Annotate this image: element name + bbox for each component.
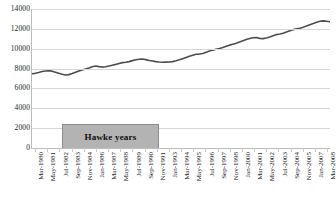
- x-axis-tick-label: May-1988: [123, 152, 130, 181]
- x-axis-tick-label: Jul-2003: [282, 152, 289, 177]
- gridline: [32, 88, 330, 89]
- gridline: [32, 29, 330, 30]
- x-axis-tick-label: Jul-1989: [136, 152, 143, 177]
- x-axis-tick-label: Nov-1984: [87, 152, 94, 180]
- y-axis-tick-label: 0: [2, 144, 30, 152]
- x-axis-tick-label: Nov-2005: [306, 152, 313, 180]
- gridline: [32, 9, 330, 10]
- x-axis-tick-label: Mar-1994: [184, 152, 191, 180]
- x-axis-tick-label: Jan-2000: [245, 152, 252, 178]
- x-axis-tick-label: Sep-2004: [294, 152, 301, 179]
- x-axis-tick-label: Sep-1990: [148, 152, 155, 179]
- hawke-years-annotation: Hawke years: [62, 124, 159, 149]
- gridline: [32, 49, 330, 50]
- y-axis-tick-label: 14000: [2, 5, 30, 13]
- y-axis-labels: 02000400060008000100001200014000: [0, 0, 30, 208]
- y-axis-tick-label: 6000: [2, 85, 30, 93]
- x-axis-tick-label: Sep-1997: [221, 152, 228, 179]
- line-chart: 02000400060008000100001200014000 Hawke y…: [0, 0, 336, 208]
- y-axis-tick-label: 8000: [2, 65, 30, 73]
- x-axis-tick-label: Nov-1991: [160, 152, 167, 180]
- y-axis-tick-label: 10000: [2, 45, 30, 53]
- x-axis-tick-label: May-1981: [50, 152, 57, 181]
- x-axis-tick-label: Mar-1987: [111, 152, 118, 180]
- x-axis-tick-label: May-1995: [196, 152, 203, 181]
- x-axis-tick-label: Jan-2007: [318, 152, 325, 178]
- x-axis-tick-label: Nov-1998: [233, 152, 240, 180]
- x-axis-tick-label: Jan-1993: [172, 152, 179, 178]
- y-axis-tick-label: 4000: [2, 105, 30, 113]
- y-axis-tick-label: 12000: [2, 25, 30, 33]
- y-axis-tick-label: 2000: [2, 124, 30, 132]
- x-axis-tick-label: Mar-2001: [257, 152, 264, 180]
- x-axis-tick-label: Mar-1980: [38, 152, 45, 180]
- x-axis-tick-label: Jul-1996: [209, 152, 216, 177]
- x-axis-tick-label: Jul-1982: [63, 152, 70, 177]
- hawke-years-label: Hawke years: [85, 132, 137, 142]
- x-axis-tick-label: May-2002: [269, 152, 276, 181]
- x-axis-tick-label: Sep-1983: [75, 152, 82, 179]
- x-axis-labels: Mar-1980May-1981Jul-1982Sep-1983Nov-1984…: [32, 152, 330, 208]
- x-axis-tick-label: Mar-2008: [330, 152, 336, 180]
- x-axis-tick-label: Jan-1986: [99, 152, 106, 178]
- gridline: [32, 108, 330, 109]
- gridline: [32, 69, 330, 70]
